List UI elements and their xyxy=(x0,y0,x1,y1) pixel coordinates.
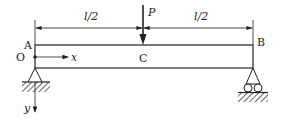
beam-diagram: l/2 l/2 P C A B O x y xyxy=(0,0,285,120)
roller-support-icon xyxy=(238,68,268,102)
load-label: P xyxy=(147,6,156,19)
y-axis-label: y xyxy=(23,102,31,115)
end-b-label: B xyxy=(257,36,265,49)
load-arrow-icon xyxy=(140,5,147,45)
origin-label: O xyxy=(16,51,25,64)
left-span-label: l/2 xyxy=(84,10,98,23)
pin-support-icon xyxy=(22,68,50,92)
x-axis-label: x xyxy=(71,51,78,64)
midpoint-label: C xyxy=(139,52,147,65)
right-span-label: l/2 xyxy=(194,10,208,23)
